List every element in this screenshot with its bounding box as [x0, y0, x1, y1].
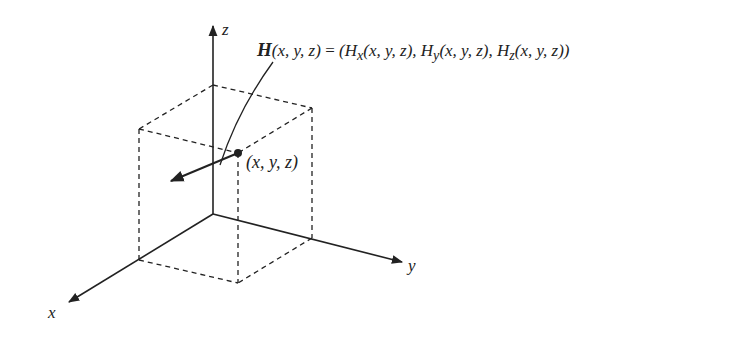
component-x-symbol: (H: [339, 41, 357, 60]
x-axis: [69, 214, 213, 302]
vector-h-arrow: [171, 153, 238, 181]
field-equation: H(x, y, z) = (Hx(x, y, z), Hy(x, y, z), …: [257, 39, 570, 64]
component-y-args: (x, y, z), H: [439, 41, 509, 60]
y-axis: [213, 214, 402, 262]
field-args: (x, y, z): [272, 41, 321, 60]
equals-sign: =: [321, 41, 339, 60]
point-dot: [234, 149, 242, 157]
axes: [69, 26, 402, 302]
x-axis-label: x: [48, 303, 56, 323]
vector-field-diagram: z x y (x, y, z) H(x, y, z) = (Hx(x, y, z…: [0, 0, 732, 355]
point-label: (x, y, z): [246, 152, 298, 173]
component-z-args: (x, y, z)): [515, 41, 570, 60]
component-x-args: (x, y, z), H: [363, 41, 433, 60]
field-symbol: H: [257, 39, 272, 60]
leader-curve: [220, 62, 273, 165]
dashed-box: [139, 85, 312, 283]
z-axis-label: z: [222, 20, 229, 40]
y-axis-label: y: [408, 256, 416, 276]
